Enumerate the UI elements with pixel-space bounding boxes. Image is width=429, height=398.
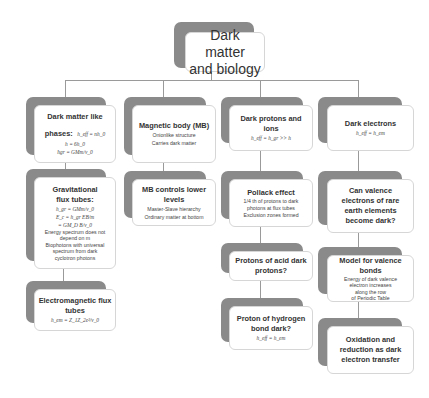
- connector: [358, 150, 359, 172]
- node-pollack-effect: Pollack effect 1/4 th of protons to dark…: [221, 171, 313, 227]
- diagram: Dark matter and biology Dark matter like…: [0, 0, 429, 398]
- root-title-line1: Dark matter: [189, 27, 261, 61]
- node-electromagnetic-flux-tubes: Electromagnetic flux tubes h_em = Z_1Z_2…: [26, 281, 116, 331]
- connector: [358, 300, 359, 318]
- connector: [260, 226, 261, 244]
- node-dark-electrons: Dark electrons h_eff = h_em: [318, 97, 414, 151]
- connector: [260, 280, 261, 300]
- connector: [358, 232, 359, 248]
- node-acid-dark-protons: Protons of acid dark protons?: [221, 243, 313, 281]
- connector: [260, 150, 261, 172]
- connector: [358, 80, 359, 98]
- node-valence-bond-model: Model for valence bonds Energy of dark v…: [318, 247, 414, 302]
- root-title-line2: and biology: [189, 61, 261, 78]
- node-dark-matter-phases: Dark matter like phases: h_eff = nh_0 h …: [26, 97, 116, 163]
- node-oxidation-reduction: Oxidation and reduction as dark electron…: [318, 318, 414, 374]
- root-node: Dark matter and biology: [174, 22, 274, 72]
- connector: [63, 268, 64, 282]
- node-mb-controls-lower-levels: MB controls lower levels Master-Slave hi…: [124, 171, 216, 226]
- connector: [65, 80, 66, 98]
- connector: [260, 80, 261, 98]
- node-hydrogen-bond-proton: Proton of hydrogen bond dark? h_eff = h_…: [221, 298, 313, 350]
- node-gravitational-flux-tubes: Gravitational flux tubes: h_gr = GMm/v_0…: [26, 169, 116, 269]
- connector: [163, 80, 164, 98]
- node-magnetic-body: Magnetic body (MB) Onionlike structure C…: [124, 97, 216, 163]
- node-dark-protons-ions: Dark protons and ions h_eff = h_gr >> h: [221, 97, 313, 151]
- node-rare-earth-valence: Can valence electrons of rare earth elem…: [318, 171, 414, 233]
- connector: [65, 80, 359, 81]
